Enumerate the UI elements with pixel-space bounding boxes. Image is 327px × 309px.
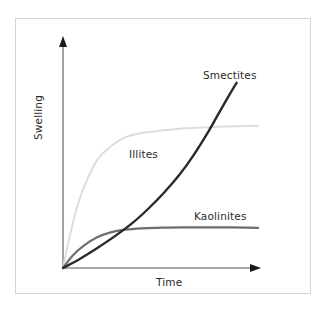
series-label-illites: Illites: [129, 149, 158, 160]
x-axis-label: Time: [156, 277, 182, 288]
arrow-up-icon: [59, 36, 67, 47]
arrow-right-icon: [250, 264, 261, 272]
y-axis-label: Swelling: [33, 95, 44, 140]
series-label-kaolinites: Kaolinites: [194, 211, 247, 222]
series-label-smectites: Smectites: [203, 70, 257, 81]
chart-figure: Smectites Illites Kaolinites Time Swelli…: [0, 0, 327, 309]
chart-plot-area: [0, 0, 327, 309]
series-line-kaolinites: [63, 227, 258, 268]
